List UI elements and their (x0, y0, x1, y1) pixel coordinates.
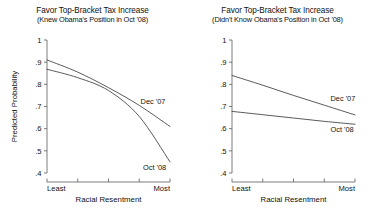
y-tick-label: .8 (35, 80, 41, 89)
y-tick-label: .7 (220, 102, 226, 111)
y-tick-label: 1 (222, 36, 226, 45)
panel-right-plot: .4.5.6.7.8.91LeastMostRacial ResentmentD… (185, 0, 370, 211)
series-line-2 (47, 69, 170, 162)
y-tick-label: .5 (35, 147, 41, 156)
series-label-2: Oct '08 (143, 163, 166, 172)
y-axis-title: Predicted Probability (10, 71, 19, 143)
series-label-1: Dec '07 (141, 97, 166, 106)
x-tick-label: Most (154, 184, 171, 193)
series-line-2 (232, 111, 355, 124)
y-tick-label: .8 (220, 80, 226, 89)
y-tick-label: .6 (35, 124, 41, 133)
panel-left-plot: .4.5.6.7.8.91LeastMostRacial ResentmentP… (0, 0, 185, 211)
series-label-1: Dec '07 (330, 94, 355, 103)
y-tick-label: .6 (220, 124, 226, 133)
y-tick-label: .7 (35, 102, 41, 111)
figure-root: Favor Top-Bracket Tax Increase (Knew Oba… (0, 0, 370, 211)
x-tick-label: Least (47, 184, 66, 193)
chart-panel-left: Favor Top-Bracket Tax Increase (Knew Oba… (0, 0, 185, 211)
x-axis-title: Racial Resentment (261, 195, 328, 204)
y-tick-label: .4 (35, 169, 41, 178)
y-tick-label: 1 (37, 36, 41, 45)
y-tick-label: .9 (220, 58, 226, 67)
y-tick-label: .4 (220, 169, 226, 178)
x-axis-title: Racial Resentment (76, 195, 143, 204)
y-tick-label: .9 (35, 58, 41, 67)
x-tick-label: Least (232, 184, 251, 193)
x-tick-label: Most (339, 184, 356, 193)
series-label-2: Oct '08 (330, 125, 353, 134)
chart-panel-right: Favor Top-Bracket Tax Increase (Didn't K… (185, 0, 370, 211)
series-line-1 (47, 60, 170, 127)
y-tick-label: .5 (220, 147, 226, 156)
